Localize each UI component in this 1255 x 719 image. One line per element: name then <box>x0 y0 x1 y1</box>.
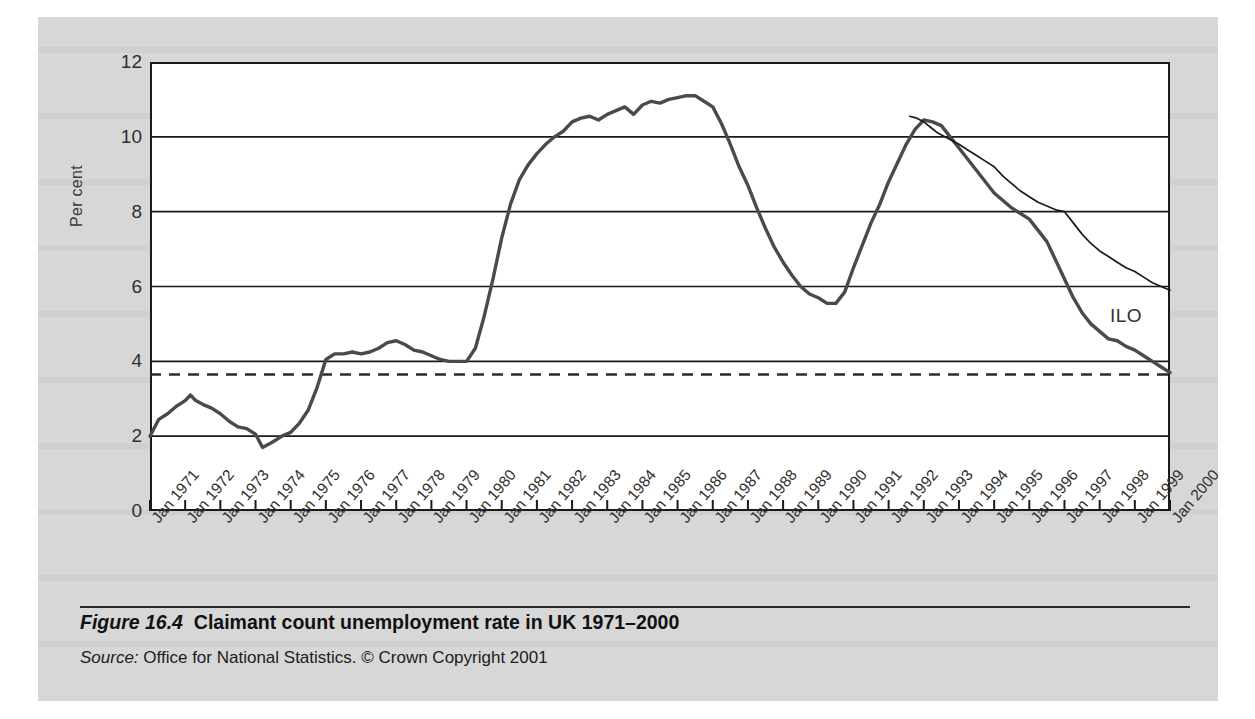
ilo-series-label: ILO <box>1110 305 1142 327</box>
y-tick-label-6: 6 <box>108 277 142 296</box>
y-tick-label-8: 8 <box>108 202 142 221</box>
source-text: Office for National Statistics. © Crown … <box>143 648 547 667</box>
source-label: Source: <box>80 648 139 667</box>
chart-canvas <box>150 62 1170 511</box>
figure-title: Claimant count unemployment rate in UK 1… <box>194 611 679 633</box>
caption-block: Figure 16.4 Claimant count unemployment … <box>80 611 1180 669</box>
figure-panel: Per cent 024681012 Jan 1971Jan 1972Jan 1… <box>38 17 1218 701</box>
x-tick-label-jan-1976: Jan 1976 <box>324 515 338 527</box>
data-series <box>150 96 1170 448</box>
figure-source: Source: Office for National Statistics. … <box>80 648 1180 668</box>
x-tick-label-jan-1988: Jan 1988 <box>746 515 760 527</box>
x-tick-label-jan-1993: Jan 1993 <box>922 515 936 527</box>
x-tick-label-jan-1971: Jan 1971 <box>148 515 162 527</box>
x-tick-label-jan-1998: Jan 1998 <box>1098 515 1112 527</box>
x-axis-tick-labels: Jan 1971Jan 1972Jan 1973Jan 1974Jan 1975… <box>150 515 1180 625</box>
series-line-ilo <box>910 116 1170 290</box>
x-tick-label-jan-1987: Jan 1987 <box>711 515 725 527</box>
x-tick-label-jan-1981: Jan 1981 <box>500 515 514 527</box>
x-tick-label-jan-1994: Jan 1994 <box>957 515 971 527</box>
x-tick-label-jan-1982: Jan 1982 <box>535 515 549 527</box>
x-tick-label-jan-1978: Jan 1978 <box>394 515 408 527</box>
x-tick-label-jan-1972: Jan 1972 <box>183 515 197 527</box>
x-tick-label-jan-1983: Jan 1983 <box>570 515 584 527</box>
x-tick-label-jan-1973: Jan 1973 <box>218 515 232 527</box>
figure-caption: Figure 16.4 Claimant count unemployment … <box>80 611 1180 634</box>
y-axis-title: Per cent <box>68 165 86 227</box>
series-line-claimant-count <box>150 96 1170 448</box>
x-tick-label-jan-1999: Jan 1999 <box>1133 515 1147 527</box>
gridlines <box>150 137 1170 436</box>
x-tick-label-jan-2000: Jan 2000 <box>1168 515 1182 527</box>
x-tick-label-jan-1980: Jan 1980 <box>465 515 479 527</box>
x-tick-label-jan-1992: Jan 1992 <box>887 515 901 527</box>
x-tick-label-jan-1995: Jan 1995 <box>992 515 1006 527</box>
y-tick-label-10: 10 <box>108 127 142 146</box>
plot-area-wrapper <box>150 62 1170 511</box>
y-tick-label-2: 2 <box>108 426 142 445</box>
x-tick-label-jan-1986: Jan 1986 <box>676 515 690 527</box>
x-tick-label-jan-1975: Jan 1975 <box>289 515 303 527</box>
x-tick-label-jan-1985: Jan 1985 <box>640 515 654 527</box>
y-tick-label-12: 12 <box>108 52 142 71</box>
y-tick-label-4: 4 <box>108 351 142 370</box>
x-tick-label-jan-1997: Jan 1997 <box>1062 515 1076 527</box>
x-tick-label-jan-1979: Jan 1979 <box>429 515 443 527</box>
x-tick-label-jan-1974: Jan 1974 <box>254 515 268 527</box>
x-tick-label-jan-1977: Jan 1977 <box>359 515 373 527</box>
figure-number: Figure 16.4 <box>80 611 183 633</box>
x-tick-label-jan-1990: Jan 1990 <box>816 515 830 527</box>
x-tick-label-jan-1996: Jan 1996 <box>1027 515 1041 527</box>
x-tick-label-jan-1989: Jan 1989 <box>781 515 795 527</box>
y-axis-tick-labels: 024681012 <box>102 62 142 511</box>
x-tick-label-jan-1984: Jan 1984 <box>605 515 619 527</box>
figure-page: Per cent 024681012 Jan 1971Jan 1972Jan 1… <box>0 0 1255 719</box>
x-tick-label-jan-1991: Jan 1991 <box>851 515 865 527</box>
y-tick-label-0: 0 <box>108 501 142 520</box>
caption-divider <box>80 606 1190 608</box>
